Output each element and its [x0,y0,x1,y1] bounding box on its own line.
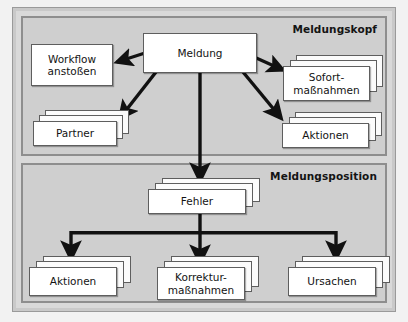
node-ursachen-label: Ursachen [304,275,359,287]
section-title-meldungsposition: Meldungsposition [270,170,377,182]
node-meldung-card[interactable]: Meldung [143,33,257,73]
node-korrekturmassnahmen[interactable]: Korrektur- maßnahmen [157,256,259,300]
node-aktionen-kopf-card[interactable]: Aktionen [282,123,369,148]
node-ursachen-card[interactable]: Ursachen [288,267,376,296]
node-korrekturmassnahmen-label: Korrektur- maßnahmen [165,271,237,296]
node-fehler-label: Fehler [178,195,216,207]
node-partner-label: Partner [53,127,97,139]
section-title-meldungskopf: Meldungskopf [292,23,377,35]
node-aktionen-position-label: Aktionen [47,275,100,287]
node-meldung-label: Meldung [174,47,225,59]
node-aktionen-kopf-label: Aktionen [299,129,352,141]
node-sofortmassnahmen-card[interactable]: Sofort- maßnahmen [283,66,370,101]
diagram-canvas: Meldungskopf Meldungsposition [0,0,408,322]
node-fehler-card[interactable]: Fehler [148,189,246,214]
node-aktionen-kopf[interactable]: Aktionen [282,112,382,148]
node-sofortmassnahmen[interactable]: Sofort- maßnahmen [283,55,383,101]
node-partner-card[interactable]: Partner [33,121,117,146]
node-korrekturmassnahmen-card[interactable]: Korrektur- maßnahmen [157,267,245,300]
node-ursachen[interactable]: Ursachen [288,256,390,296]
node-aktionen-position[interactable]: Aktionen [29,256,131,296]
node-fehler[interactable]: Fehler [148,178,260,214]
node-aktionen-position-card[interactable]: Aktionen [29,267,117,296]
node-partner[interactable]: Partner [33,110,129,146]
node-workflow-anstossen-label: Workflow anstoßen [45,53,100,78]
node-workflow-anstossen-card[interactable]: Workflow anstoßen [31,44,113,86]
node-sofortmassnahmen-label: Sofort- maßnahmen [290,71,362,96]
node-meldung[interactable]: Meldung [143,33,257,73]
node-workflow-anstossen[interactable]: Workflow anstoßen [31,44,113,86]
